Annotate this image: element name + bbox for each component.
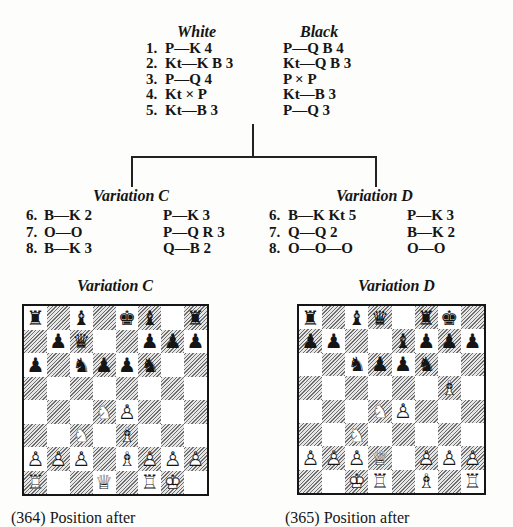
square-d8 xyxy=(93,306,116,330)
square-a7: ♟ xyxy=(299,329,322,352)
tree-left-drop-line xyxy=(131,156,133,187)
square-c2: ♟♙ xyxy=(70,447,93,471)
white-pawn-icon: ♟♙ xyxy=(139,448,161,470)
square-d4: ♞♘ xyxy=(93,400,116,424)
white-move: Kt—K B 3 xyxy=(165,55,233,71)
white-pawn-icon: ♟♙ xyxy=(300,447,322,469)
square-b8 xyxy=(322,306,345,329)
square-f6: ♞ xyxy=(415,353,438,376)
diagram-d-title: Variation D xyxy=(358,277,435,295)
black-bishop-icon: ♝ xyxy=(139,307,161,329)
white-pawn-icon: ♟♙ xyxy=(185,448,207,470)
square-c4 xyxy=(345,400,368,423)
square-f3 xyxy=(415,423,438,446)
white-pawn-icon: ♟♙ xyxy=(438,447,460,469)
white-move: Kt—B 3 xyxy=(165,102,218,118)
black-pawn-icon: ♟ xyxy=(24,354,46,376)
square-g8: ♚ xyxy=(438,306,461,329)
white-knight-icon: ♞♘ xyxy=(369,400,391,422)
square-h6 xyxy=(184,353,207,377)
square-g4 xyxy=(438,400,461,423)
square-h3 xyxy=(184,424,207,448)
square-f4 xyxy=(138,400,161,424)
black-pawn-icon: ♟ xyxy=(461,330,483,352)
square-a2: ♟♙ xyxy=(24,447,47,471)
square-a6 xyxy=(299,353,322,376)
white-pawn-icon: ♟♙ xyxy=(415,447,437,469)
white-bishop-icon: ♝♗ xyxy=(116,424,138,446)
black-rook-icon: ♜ xyxy=(300,307,322,329)
black-pawn-icon: ♟ xyxy=(139,330,161,352)
white-queen-icon: ♛♕ xyxy=(93,471,115,493)
square-d2: ♛♕ xyxy=(368,446,391,469)
black-move: P—Q 3 xyxy=(283,102,330,118)
square-b4 xyxy=(322,400,345,423)
square-b1 xyxy=(322,470,345,493)
square-h1 xyxy=(184,471,207,495)
square-d7 xyxy=(368,329,391,352)
black-pawn-icon: ♟ xyxy=(323,330,345,352)
white-rook-icon: ♜♖ xyxy=(461,470,483,492)
white-pawn-icon: ♟♙ xyxy=(162,448,184,470)
diagram-c-title: Variation C xyxy=(77,277,153,295)
black-queen-icon: ♛ xyxy=(369,307,391,329)
black-move: Kt—Q B 3 xyxy=(283,55,351,71)
square-f5 xyxy=(415,376,438,399)
square-e5 xyxy=(392,376,415,399)
square-b2: ♟♙ xyxy=(47,447,70,471)
white-pawn-icon: ♟♙ xyxy=(116,401,138,423)
square-f7: ♟ xyxy=(415,329,438,352)
white-pawn-icon: ♟♙ xyxy=(70,448,92,470)
white-move: B—K 3 xyxy=(44,240,92,256)
square-g4 xyxy=(161,400,184,424)
square-h1: ♜♖ xyxy=(461,470,484,493)
square-e7 xyxy=(116,330,139,354)
move-number: 7. xyxy=(26,224,37,240)
square-a5 xyxy=(24,377,47,401)
black-pawn-icon: ♟ xyxy=(93,354,115,376)
square-e2 xyxy=(392,446,415,469)
black-bishop-icon: ♝ xyxy=(392,330,414,352)
white-column-heading: White xyxy=(177,23,216,41)
square-f5 xyxy=(138,377,161,401)
diagram-c-caption: (364) Position after xyxy=(11,509,135,527)
square-a1: ♜♖ xyxy=(24,471,47,495)
white-pawn-icon: ♟♙ xyxy=(392,400,414,422)
black-rook-icon: ♜ xyxy=(24,307,46,329)
square-g5: ♝♗ xyxy=(438,376,461,399)
black-move: Q—B 2 xyxy=(163,240,211,256)
square-g6 xyxy=(161,353,184,377)
square-d8: ♛ xyxy=(368,306,391,329)
black-column-heading: Black xyxy=(300,23,338,41)
square-a6: ♟ xyxy=(24,353,47,377)
tree-trunk-line xyxy=(252,124,254,157)
square-d5 xyxy=(93,377,116,401)
square-c8: ♝ xyxy=(70,306,93,330)
square-f8: ♝ xyxy=(138,306,161,330)
square-h5 xyxy=(461,376,484,399)
square-f2: ♟♙ xyxy=(415,446,438,469)
black-pawn-icon: ♟ xyxy=(392,353,414,375)
white-move: O—O—O xyxy=(288,240,353,256)
square-b6 xyxy=(47,353,70,377)
diagram-d-caption: (365) Position after xyxy=(285,509,409,527)
square-f4 xyxy=(415,400,438,423)
chess-board-variation-d: ♜♝♛♜♚♟♟♝♟♟♟♞♟♟♞♝♗♞♘♟♙♞♘♟♙♟♙♟♙♛♕♟♙♟♙♟♙♚♔♜… xyxy=(297,304,486,495)
square-a4 xyxy=(299,400,322,423)
square-a1 xyxy=(299,470,322,493)
white-king-icon: ♚♔ xyxy=(346,470,368,492)
square-g6 xyxy=(438,353,461,376)
white-move: P—Q 4 xyxy=(165,71,212,87)
square-b6 xyxy=(322,353,345,376)
black-pawn-icon: ♟ xyxy=(415,330,437,352)
move-number: 4. xyxy=(146,86,157,102)
white-move: Q—Q 2 xyxy=(288,224,338,240)
black-move: P—K 3 xyxy=(407,207,454,223)
square-b4 xyxy=(47,400,70,424)
square-c4 xyxy=(70,400,93,424)
square-f1: ♝♗ xyxy=(415,470,438,493)
white-move: B—K 2 xyxy=(44,207,92,223)
square-d3 xyxy=(368,423,391,446)
black-move: P × P xyxy=(283,71,317,87)
square-f1: ♜♖ xyxy=(138,471,161,495)
